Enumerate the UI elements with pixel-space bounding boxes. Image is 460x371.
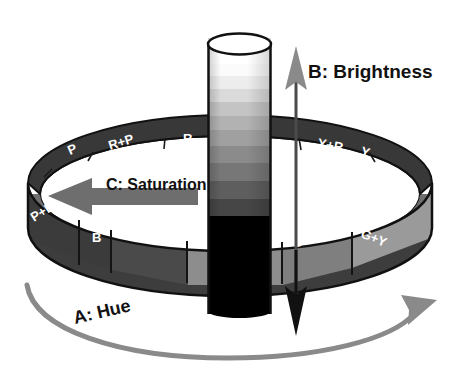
saturation-axis-label: C: Saturation xyxy=(106,176,206,193)
hsb-color-space-diagram: P R+P R Y+R Y P+B B B+G G G+Y xyxy=(0,0,460,371)
ring-segment-label-r: R xyxy=(183,131,193,146)
ring-segment-label-b: B xyxy=(92,230,101,245)
cylinder-top-cap xyxy=(208,34,271,55)
brightness-axis-label: B: Brightness xyxy=(308,61,433,82)
hue-axis-label: A: Hue xyxy=(71,295,132,328)
brightness-cylinder xyxy=(206,34,273,317)
diagram-canvas: P R+P R Y+R Y P+B B B+G G G+Y xyxy=(0,0,460,371)
